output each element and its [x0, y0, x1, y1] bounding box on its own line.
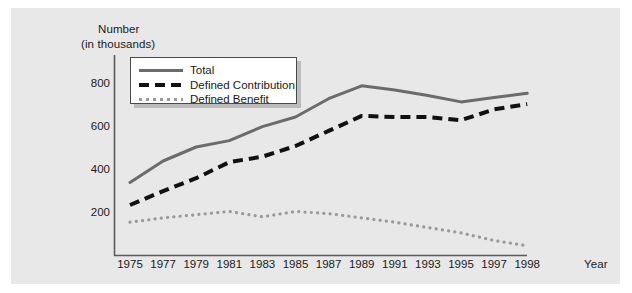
x-tick-label-1987: 1987 [312, 258, 346, 270]
chart-figure: Number (in thousands) Year 200400600800 … [0, 0, 632, 293]
legend-label-total: Total [190, 64, 214, 76]
x-tick-label-1991: 1991 [378, 258, 412, 270]
legend-swatch-defined-contribution-icon [139, 79, 183, 91]
x-tick-label-1983: 1983 [245, 258, 279, 270]
y-tick-label-200: 200 [76, 206, 110, 218]
x-tick-label-1975: 1975 [113, 258, 147, 270]
x-tick-label-1977: 1977 [146, 258, 180, 270]
legend-swatch-total-icon [139, 64, 183, 76]
legend-label-defined-benefit: Defined Benefit [190, 93, 269, 105]
x-tick-label-1989: 1989 [345, 258, 379, 270]
chart-legend: Total Defined Contribution Defined Benef… [130, 57, 297, 104]
y-axis-title-line2: (in thousands) [81, 38, 155, 50]
x-tick-label-1998: 1998 [510, 258, 544, 270]
series-line-defined-contribution [130, 104, 527, 205]
y-tick-label-400: 400 [76, 163, 110, 175]
y-tick-label-600: 600 [76, 120, 110, 132]
x-axis-title: Year [584, 258, 608, 270]
x-tick-label-1997: 1997 [477, 258, 511, 270]
legend-item-defined-contribution: Defined Contribution [139, 78, 295, 92]
series-line-defined-benefit [130, 212, 527, 246]
x-tick-label-1985: 1985 [279, 258, 313, 270]
x-tick-label-1981: 1981 [212, 258, 246, 270]
y-axis-title-line1: Number [98, 23, 140, 35]
x-tick-label-1993: 1993 [411, 258, 445, 270]
legend-item-total: Total [139, 63, 214, 77]
legend-item-defined-benefit: Defined Benefit [139, 92, 269, 106]
y-tick-label-800: 800 [76, 77, 110, 89]
x-tick-label-1979: 1979 [179, 258, 213, 270]
legend-swatch-defined-benefit-icon [139, 93, 183, 105]
x-tick-label-1995: 1995 [444, 258, 478, 270]
legend-label-defined-contribution: Defined Contribution [190, 79, 295, 91]
